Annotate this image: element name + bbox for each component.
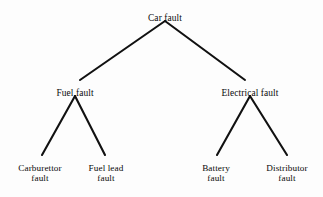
node-fuel-fault-line1: Fuel fault <box>56 88 93 99</box>
node-car-fault: Car fault <box>148 13 182 24</box>
edge-electrical-fault-to-distributor-fault <box>250 96 287 155</box>
node-distributor-fault: Distributor fault <box>266 163 307 184</box>
node-battery-fault-line1: Battery <box>202 163 230 173</box>
node-battery-fault-line2: fault <box>202 173 230 183</box>
edge-fuel-fault-to-carburettor-fault <box>42 96 75 155</box>
node-carburettor-fault-line2: fault <box>18 173 61 183</box>
fault-tree-diagram: Car fault Fuel fault Electrical fault Ca… <box>0 0 323 197</box>
node-fuel-lead-fault-line1: Fuel lead <box>89 163 124 173</box>
node-distributor-fault-line1: Distributor <box>266 163 307 173</box>
edge-electrical-fault-to-battery-fault <box>217 96 250 155</box>
edge-root-to-fuel-fault <box>80 21 165 80</box>
edge-root-to-electrical-fault <box>165 21 245 80</box>
node-carburettor-fault-line1: Carburettor <box>18 163 61 173</box>
node-battery-fault: Battery fault <box>202 163 230 184</box>
node-fuel-fault: Fuel fault <box>56 88 93 99</box>
edge-fuel-fault-to-fuel-lead-fault <box>75 96 105 155</box>
node-electrical-fault: Electrical fault <box>221 88 278 99</box>
node-carburettor-fault: Carburettor fault <box>18 163 61 184</box>
node-fuel-lead-fault: Fuel lead fault <box>89 163 124 184</box>
node-electrical-fault-line1: Electrical fault <box>221 88 278 99</box>
node-fuel-lead-fault-line2: fault <box>89 173 124 183</box>
node-car-fault-line1: Car fault <box>148 13 182 24</box>
node-distributor-fault-line2: fault <box>266 173 307 183</box>
